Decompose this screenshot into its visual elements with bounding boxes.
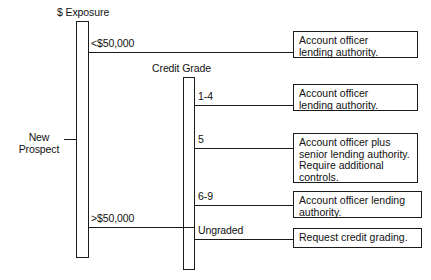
branch-label-grade-5: 5 [198, 133, 204, 145]
outcome-text: Account officer lending authority. [299, 195, 417, 218]
branch-label-grade-6-9: 6-9 [198, 190, 213, 202]
outcome-box: Request credit grading. [293, 228, 422, 248]
connector-branch-grade-1-4 [194, 105, 294, 106]
outcome-box: Account officer plus senior lending auth… [293, 133, 418, 183]
node-heading-credit-grade: Credit Grade [152, 62, 211, 74]
branch-label-grade-1-4: 1-4 [198, 90, 213, 102]
branch-label-grade-ungraded: Ungraded [198, 224, 243, 236]
node-heading-exposure: $ Exposure [57, 6, 109, 18]
connector-branch-grade-5 [194, 148, 294, 149]
outcome-text: Account officer plus senior lending auth… [299, 137, 413, 183]
connector-branch-grade-6-9 [194, 205, 294, 206]
root-label-new-prospect: New Prospect [12, 131, 66, 155]
outcome-box: Account officer lending authority. [293, 84, 418, 111]
decision-bar-exposure [76, 21, 89, 258]
connector-branch-grade-ungraded [194, 239, 294, 240]
branch-label-over-50000: >$50,000 [91, 212, 134, 224]
outcome-box: Account officer lending authority. [293, 191, 422, 218]
connector-branch-under-50000 [88, 52, 294, 53]
outcome-box: Account officer lending authority. [293, 31, 418, 58]
branch-label-under-50000: <$50,000 [91, 37, 134, 49]
outcome-text: Account officer lending authority. [299, 88, 413, 111]
connector-branch-over-50000 [88, 227, 194, 228]
outcome-text: Request credit grading. [299, 232, 417, 244]
outcome-text: Account officer lending authority. [299, 35, 413, 58]
credit-decision-tree-diagram: $ Exposure Credit Grade New Prospect <$5… [0, 0, 431, 280]
